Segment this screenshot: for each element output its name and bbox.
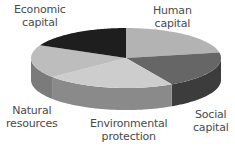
- label-environmental-protection: Environmentalprotection: [90, 117, 167, 143]
- label-economic-capital: Economiccapital: [14, 3, 66, 29]
- label-natural-resources: Naturalresources: [6, 104, 58, 130]
- label-social-capital: Socialcapital: [193, 108, 229, 134]
- pie-tops: [31, 28, 221, 88]
- label-human-capital: Humancapital: [153, 4, 192, 30]
